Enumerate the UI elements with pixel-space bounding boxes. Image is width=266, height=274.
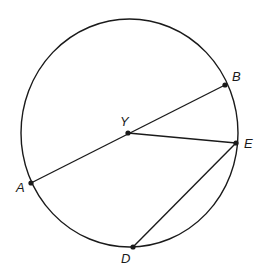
points xyxy=(28,82,238,249)
point-d-label: D xyxy=(121,251,130,266)
point-a-dot xyxy=(28,180,33,185)
point-y-label: Y xyxy=(120,114,130,129)
point-e-dot xyxy=(233,140,238,145)
point-b-dot xyxy=(222,82,227,87)
point-labels: YBEAD xyxy=(15,69,253,266)
point-e-label: E xyxy=(244,136,253,151)
point-d-dot xyxy=(130,244,135,249)
point-y-dot xyxy=(125,130,130,135)
point-a-label: A xyxy=(15,180,25,195)
geometry-diagram: YBEAD xyxy=(0,0,266,274)
point-b-label: B xyxy=(232,69,241,84)
segment-ye xyxy=(128,133,236,143)
